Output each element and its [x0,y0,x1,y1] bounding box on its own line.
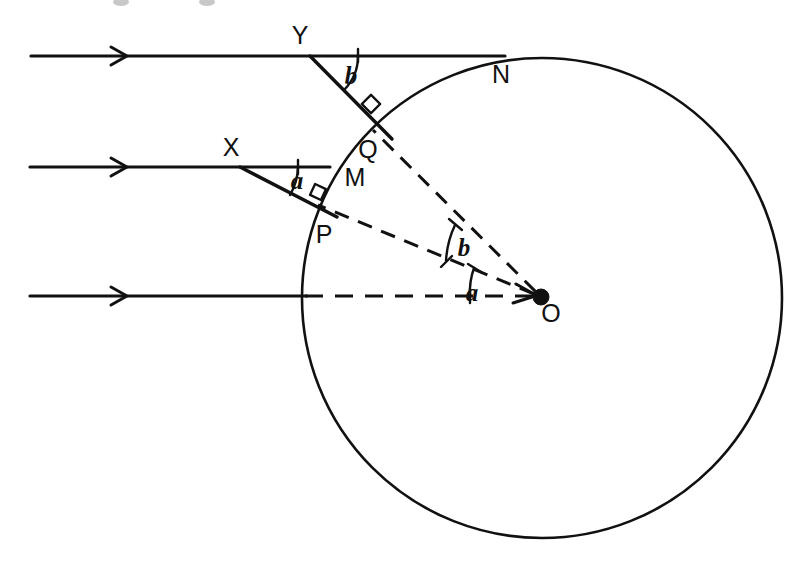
point-label-N: N [492,60,510,88]
point-label-M: M [345,163,366,191]
radius-to-Q [373,130,535,291]
lower-refracted-ray [240,167,337,217]
incident-rays-group [30,47,505,305]
point-label-O: O [541,299,560,327]
point-label-P: P [316,220,333,248]
cropped-text-remnant [113,0,215,6]
angle-label-a-at-X: a [291,167,304,194]
point-label-Q: Q [358,135,377,163]
point-label-Y: Y [292,21,309,49]
arc-tick-b-end [449,219,462,230]
angle-label-a-at-O: a [466,279,479,306]
angle-labels-group: b a b a [291,62,479,306]
ray-diagram-svg: Ray diagram of two parallel light rays r… [0,0,800,569]
point-labels-group: Y N Q X M P O [223,21,561,327]
radius-arrow-axis [513,297,532,303]
angle-label-b-at-O: b [458,234,471,261]
angle-arcs-group [290,49,481,303]
diagram-root: Ray diagram of two parallel light rays r… [0,0,800,569]
angle-label-b-at-Y: b [345,62,358,89]
point-label-X: X [223,133,240,161]
radii-group [305,130,535,303]
radius-to-P [318,205,534,294]
angle-arc-b-at-O [446,225,455,261]
